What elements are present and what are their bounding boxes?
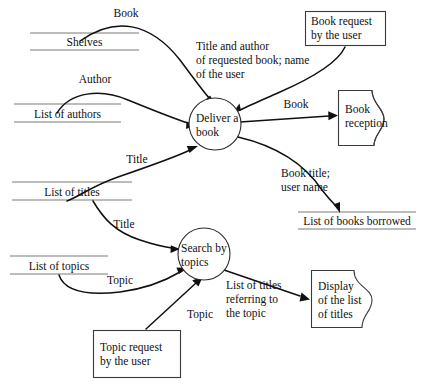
output-document-line2: reception bbox=[345, 117, 388, 130]
flow-borrow-record[interactable]: Book title; user name bbox=[238, 137, 340, 213]
process-label-line2: topics bbox=[181, 256, 209, 269]
process-label-line2: book bbox=[196, 126, 219, 138]
data-store-label: List of books borrowed bbox=[303, 215, 411, 227]
output-document-line2: of the list bbox=[318, 294, 362, 306]
flow-label-line3: of the user bbox=[196, 68, 245, 80]
process-deliver-a-book[interactable]: Deliver a book bbox=[189, 98, 241, 150]
flow-label-line1: List of titles bbox=[226, 279, 282, 291]
flow-label-line1: Title and author bbox=[196, 40, 269, 52]
output-document-line3: of titles bbox=[318, 308, 353, 320]
data-store-list-of-topics[interactable]: List of topics bbox=[10, 256, 108, 274]
output-document-line1: Book bbox=[345, 103, 370, 115]
data-store-label: List of authors bbox=[34, 108, 102, 120]
dfd-svg: Shelves List of authors List of titles L… bbox=[0, 0, 426, 386]
process-label-line1: Search by bbox=[181, 242, 227, 255]
flow-label-line2: referring to bbox=[226, 293, 278, 306]
flow-label: Title bbox=[113, 218, 134, 230]
external-entity-topic-request[interactable]: Topic request by the user bbox=[94, 331, 181, 378]
flow-label-line3: the topic bbox=[226, 307, 266, 320]
flow-title-to-search[interactable]: Title bbox=[93, 201, 180, 253]
external-entity-line1: Topic request bbox=[100, 341, 163, 354]
process-label-line1: Deliver a bbox=[196, 112, 238, 124]
process-search-by-topics[interactable]: Search by topics bbox=[178, 228, 230, 280]
data-store-shelves[interactable]: Shelves bbox=[30, 33, 139, 50]
dfd-canvas: Shelves List of authors List of titles L… bbox=[0, 0, 426, 386]
external-entity-line2: by the user bbox=[311, 29, 362, 42]
output-document-display-of-list-of-titles[interactable]: Display of the list of titles bbox=[312, 271, 373, 328]
flow-label-line2: of requested book; name bbox=[196, 54, 309, 67]
data-store-list-of-titles[interactable]: List of titles bbox=[12, 182, 132, 200]
flow-result-titles[interactable]: List of titles referring to the topic bbox=[224, 270, 310, 320]
external-entity-line1: Book request bbox=[311, 15, 373, 28]
flow-book-from-shelves[interactable]: Book bbox=[80, 7, 215, 105]
data-store-list-of-books-borrowed[interactable]: List of books borrowed bbox=[298, 212, 416, 229]
external-entity-book-request[interactable]: Book request by the user bbox=[306, 12, 386, 46]
flow-label: Book bbox=[114, 7, 139, 19]
data-store-list-of-authors[interactable]: List of authors bbox=[14, 104, 121, 122]
external-entity-line2: by the user bbox=[100, 355, 151, 368]
output-document-line1: Display bbox=[318, 280, 354, 293]
flow-label-line1: Book title; bbox=[281, 167, 330, 179]
flow-label: Book bbox=[284, 98, 309, 110]
flow-label-line2: user name bbox=[281, 181, 328, 193]
flow-label: Title bbox=[126, 153, 147, 165]
flow-book-to-reception[interactable]: Book bbox=[240, 98, 338, 122]
flow-label: Author bbox=[79, 73, 112, 85]
flow-label: Topic bbox=[187, 308, 213, 321]
flow-label: Topic bbox=[107, 274, 133, 287]
output-document-book-reception[interactable]: Book reception bbox=[339, 91, 389, 146]
data-store-label: List of topics bbox=[29, 260, 90, 273]
flow-author[interactable]: Author bbox=[57, 73, 196, 129]
